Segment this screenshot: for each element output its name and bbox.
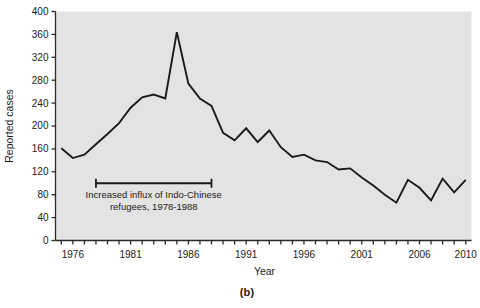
x-axis-tick-label: 1981 xyxy=(119,249,142,260)
y-axis-tick-label: 360 xyxy=(32,29,49,40)
x-axis-tick-label: 1996 xyxy=(293,249,316,260)
y-axis-tick-label: 80 xyxy=(37,189,49,200)
y-axis-tick-label: 0 xyxy=(43,235,49,246)
y-axis-tick-label: 40 xyxy=(37,212,49,223)
line-chart: 0408012016020024028032036040019761981198… xyxy=(0,0,480,308)
annotation-text-line-1: Increased influx of Indo-Chinese xyxy=(86,189,222,200)
y-axis-tick-label: 400 xyxy=(32,6,49,17)
figure-caption-label: (b) xyxy=(240,286,255,298)
x-axis-tick-label: 2010 xyxy=(455,249,478,260)
x-axis-tick-label: 1976 xyxy=(62,249,85,260)
y-axis-tick-label: 200 xyxy=(32,120,49,131)
x-axis-tick-label: 1986 xyxy=(177,249,200,260)
x-axis-tick-label: 2001 xyxy=(351,249,374,260)
y-axis-tick-label: 280 xyxy=(32,75,49,86)
y-axis-tick-label: 240 xyxy=(32,98,49,109)
y-axis-tick-label: 160 xyxy=(32,143,49,154)
y-axis-title: Reported cases xyxy=(3,89,15,163)
figure-caption: (b) xyxy=(0,286,480,298)
x-axis-tick-label: 1991 xyxy=(235,249,258,260)
x-axis-tick-label: 2006 xyxy=(408,249,431,260)
annotation-text-line-2: refugees, 1978-1988 xyxy=(110,201,198,212)
x-axis-title: Year xyxy=(254,265,276,277)
y-axis-tick-label: 320 xyxy=(32,52,49,63)
y-axis-tick-label: 120 xyxy=(32,166,49,177)
figure-panel: 0408012016020024028032036040019761981198… xyxy=(0,0,480,308)
